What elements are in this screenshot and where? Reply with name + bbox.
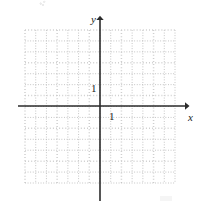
y-axis-arrowhead [96,16,103,20]
x-axis-label: x [188,112,193,123]
axes-group [18,16,190,201]
y-axis-label: y [91,14,96,25]
x-axis-arrowhead [185,102,190,109]
scan-artifact-top-left [38,0,47,6]
x-axis-tick-label-1: 1 [109,111,115,122]
scan-artifact-bottom-right [160,196,172,201]
y-axis-tick-label-1: 1 [91,83,97,94]
coordinate-grid-figure: y x 1 1 [0,0,200,208]
graph-canvas [0,0,200,208]
